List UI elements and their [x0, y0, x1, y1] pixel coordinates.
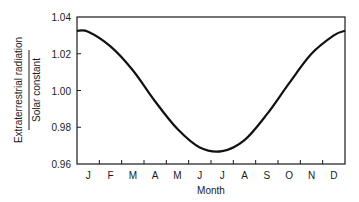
y-axis-title-denominator: Solar constant [31, 58, 42, 122]
y-tick-label: 1.04 [52, 12, 72, 23]
x-tick-label: A [152, 170, 159, 181]
x-tick-label: S [263, 170, 270, 181]
x-axis: JFMAMJJASOND [86, 160, 338, 181]
y-tick-label: 0.96 [52, 159, 72, 170]
x-tick-label: J [220, 170, 225, 181]
x-tick-label: J [197, 170, 202, 181]
x-tick-label: O [285, 170, 293, 181]
chart: Extraterrestrial radiation Solar constan… [0, 0, 359, 202]
y-tick-label: 1.00 [52, 86, 72, 97]
x-tick-label: F [107, 170, 113, 181]
y-tick-label: 1.02 [52, 49, 72, 60]
plot-frame [77, 17, 345, 164]
x-tick-label: J [86, 170, 91, 181]
data-line [77, 30, 345, 151]
x-tick-label: N [308, 170, 315, 181]
y-tick-label: 0.98 [52, 122, 72, 133]
x-tick-label: M [173, 170, 181, 181]
x-tick-label: A [241, 170, 248, 181]
x-tick-label: D [330, 170, 337, 181]
x-tick-label: M [129, 170, 137, 181]
y-axis-title-numerator: Extraterrestrial radiation [13, 37, 24, 143]
y-axis-title: Extraterrestrial radiation Solar constan… [13, 37, 42, 143]
x-axis-title: Month [197, 185, 225, 196]
